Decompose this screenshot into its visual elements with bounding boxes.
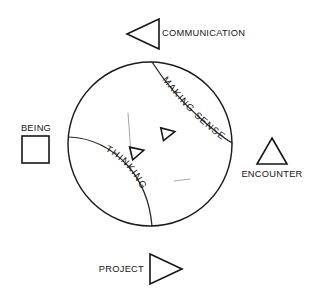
diagram-root: MAKING SENSE THINKING COMMUNICATION ENCO… bbox=[0, 0, 327, 295]
making-sense-label: MAKING SENSE bbox=[161, 74, 229, 142]
encounter-triangle-icon[interactable] bbox=[257, 138, 287, 164]
being-label: BEING bbox=[21, 123, 51, 133]
inner-triangle-lower bbox=[130, 144, 146, 160]
node-being[interactable]: BEING bbox=[21, 123, 51, 163]
project-triangle-icon[interactable] bbox=[150, 254, 182, 284]
node-encounter[interactable]: ENCOUNTER bbox=[241, 138, 302, 179]
main-circle bbox=[68, 62, 232, 226]
communication-label: COMMUNICATION bbox=[162, 28, 245, 38]
communication-triangle-icon[interactable] bbox=[127, 19, 159, 49]
being-square-icon[interactable] bbox=[22, 136, 49, 163]
inner-triangle-upper bbox=[161, 125, 176, 140]
encounter-label: ENCOUNTER bbox=[241, 169, 302, 179]
node-project[interactable]: PROJECT bbox=[99, 254, 182, 284]
faint-short-mark bbox=[174, 179, 190, 181]
cycle-diagram: MAKING SENSE THINKING COMMUNICATION ENCO… bbox=[0, 0, 327, 295]
node-communication[interactable]: COMMUNICATION bbox=[127, 19, 245, 49]
project-label: PROJECT bbox=[99, 264, 144, 274]
